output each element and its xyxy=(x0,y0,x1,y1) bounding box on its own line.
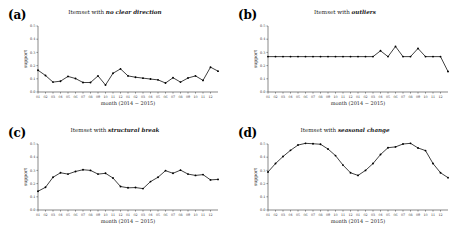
x-tick-label: 01 xyxy=(356,213,360,217)
y-tick-label: 0.5 xyxy=(30,24,35,28)
data-point xyxy=(440,56,442,58)
x-tick-label: 07 xyxy=(401,95,405,99)
data-point xyxy=(127,75,129,77)
data-point xyxy=(365,169,367,171)
x-tick-label: 11 xyxy=(341,213,345,217)
x-tick-label: 04 xyxy=(288,213,292,217)
data-point xyxy=(105,172,107,174)
figure-container: (a) Itemset with no clear direction 0.00… xyxy=(0,0,460,235)
data-point xyxy=(75,78,77,80)
data-point xyxy=(350,172,352,174)
data-point xyxy=(202,79,204,81)
x-tick-label: 12 xyxy=(438,213,442,217)
data-point xyxy=(327,148,329,150)
y-tick-label: 0.3 xyxy=(30,169,35,173)
x-tick-label: 11 xyxy=(111,95,115,99)
x-tick-label: 04 xyxy=(58,213,62,217)
x-tick-label: 01 xyxy=(266,95,270,99)
data-point xyxy=(52,81,54,83)
y-axis-label: support xyxy=(23,50,28,68)
data-point xyxy=(342,56,344,58)
y-tick-label: 0.5 xyxy=(260,142,265,146)
data-point xyxy=(380,154,382,156)
data-point xyxy=(217,178,219,180)
x-tick-label: 06 xyxy=(163,213,167,217)
data-point xyxy=(290,149,292,151)
panel-structural-break: (c) Itemset with structural break 0.00.1… xyxy=(0,118,230,235)
y-tick-label: 0.5 xyxy=(260,24,265,28)
x-tick-label: 08 xyxy=(318,95,322,99)
data-point xyxy=(82,82,84,84)
data-point xyxy=(217,70,219,72)
data-point xyxy=(342,164,344,166)
y-tick-label: 0.1 xyxy=(30,77,35,81)
data-point xyxy=(432,56,434,58)
y-tick-label: 0.1 xyxy=(30,195,35,199)
x-tick-label: 01 xyxy=(126,213,130,217)
x-tick-label: 12 xyxy=(348,95,352,99)
x-tick-label: 02 xyxy=(273,95,277,99)
x-tick-label: 04 xyxy=(378,213,382,217)
data-point xyxy=(112,72,114,74)
data-point xyxy=(447,177,449,179)
data-point xyxy=(150,78,152,80)
data-point xyxy=(37,190,39,192)
y-tick-label: 0.4 xyxy=(260,37,265,41)
data-point xyxy=(97,75,99,77)
data-point xyxy=(410,142,412,144)
x-tick-label: 02 xyxy=(43,213,47,217)
y-tick-label: 0.3 xyxy=(30,51,35,55)
data-point xyxy=(320,56,322,58)
x-tick-label: 07 xyxy=(81,95,85,99)
x-tick-label: 09 xyxy=(326,213,330,217)
data-point xyxy=(447,71,449,73)
x-tick-label: 09 xyxy=(416,95,420,99)
x-tick-label: 05 xyxy=(156,95,160,99)
data-point xyxy=(210,66,212,68)
data-point xyxy=(120,186,122,188)
data-point xyxy=(180,169,182,171)
data-point xyxy=(417,147,419,149)
x-tick-label: 02 xyxy=(43,95,47,99)
x-tick-label: 04 xyxy=(148,95,152,99)
data-point xyxy=(380,50,382,52)
data-point xyxy=(135,76,137,78)
data-point xyxy=(402,143,404,145)
x-tick-label: 07 xyxy=(171,213,175,217)
data-point xyxy=(327,56,329,58)
data-point xyxy=(335,155,337,157)
x-tick-label: 08 xyxy=(178,213,182,217)
x-tick-label: 04 xyxy=(288,95,292,99)
plot-svg-a: 0.00.10.20.30.40.50102030405060708091011… xyxy=(0,0,230,117)
x-tick-label: 12 xyxy=(118,95,122,99)
data-point xyxy=(67,75,69,77)
y-tick-label: 0.3 xyxy=(260,169,265,173)
x-axis-label: month (2014 − 2015) xyxy=(331,100,386,106)
data-point xyxy=(312,56,314,58)
data-point xyxy=(290,56,292,58)
data-point xyxy=(297,144,299,146)
x-tick-label: 03 xyxy=(141,213,145,217)
x-tick-label: 12 xyxy=(208,213,212,217)
data-point xyxy=(150,181,152,183)
x-tick-label: 05 xyxy=(296,213,300,217)
x-tick-label: 07 xyxy=(81,213,85,217)
x-tick-label: 12 xyxy=(348,213,352,217)
x-axis-label: month (2014 − 2015) xyxy=(331,218,386,224)
data-point xyxy=(425,56,427,58)
x-tick-label: 10 xyxy=(103,213,107,217)
data-point xyxy=(395,146,397,148)
data-point xyxy=(305,142,307,144)
data-point xyxy=(112,177,114,179)
data-point xyxy=(282,56,284,58)
x-axis-label: month (2014 − 2015) xyxy=(101,100,156,106)
x-tick-label: 01 xyxy=(356,95,360,99)
plot-area-d: 0.00.10.20.30.40.50102030405060708091011… xyxy=(230,118,460,235)
data-point xyxy=(60,172,62,174)
data-point xyxy=(275,163,277,165)
plot-svg-c: 0.00.10.20.30.40.50102030405060708091011… xyxy=(0,118,230,235)
y-axis-label: support xyxy=(23,168,28,186)
y-tick-label: 0.2 xyxy=(260,64,265,68)
data-point xyxy=(52,176,54,178)
data-point xyxy=(67,173,69,175)
